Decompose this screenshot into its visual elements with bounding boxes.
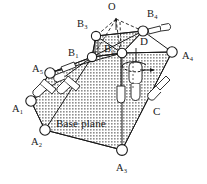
label-link-d: D bbox=[140, 36, 148, 47]
label-a4: A4 bbox=[182, 51, 193, 63]
label-b1: B1 bbox=[68, 48, 78, 60]
joint-b1 bbox=[87, 52, 96, 61]
label-link-c: C bbox=[153, 106, 161, 117]
label-apex-o: O bbox=[108, 2, 116, 13]
joint-a3 bbox=[117, 145, 128, 156]
label-a2: A2 bbox=[31, 137, 42, 149]
label-b2: B2 bbox=[104, 44, 114, 56]
figure-container: O B3 B4 B1 B2 D A4 A5 A1 A2 A3 C Base pl… bbox=[0, 0, 207, 184]
label-base-plane: Base plane bbox=[56, 118, 106, 129]
label-b4: B4 bbox=[147, 9, 157, 21]
base-plane-polygon bbox=[31, 52, 172, 150]
joint-a4 bbox=[167, 47, 177, 57]
label-a3: A3 bbox=[116, 163, 127, 175]
actuator-top-right bbox=[148, 24, 171, 35]
mechanism-diagram bbox=[0, 0, 207, 184]
joint-b2 bbox=[117, 48, 127, 58]
label-a1: A1 bbox=[12, 104, 23, 116]
joint-a1 bbox=[26, 96, 36, 106]
joint-a2 bbox=[40, 125, 50, 135]
label-a5: A5 bbox=[32, 64, 43, 76]
joint-a5 bbox=[45, 68, 55, 78]
joint-b3 bbox=[91, 31, 100, 40]
label-b3: B3 bbox=[77, 19, 87, 31]
